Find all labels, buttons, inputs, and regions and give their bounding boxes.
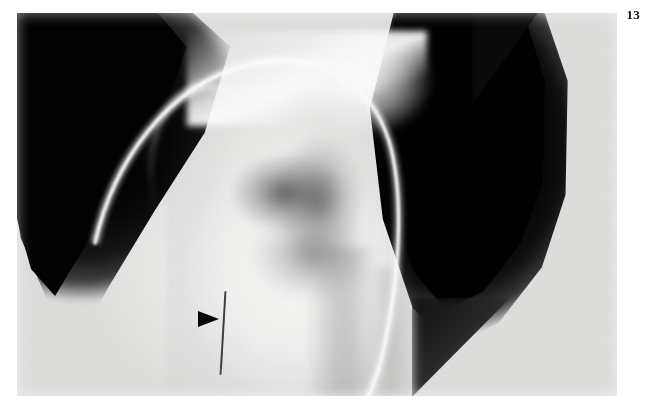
radiograph-image [17, 13, 617, 396]
figure-container: 13 [0, 0, 648, 409]
arrowhead-icon [198, 311, 219, 327]
spine-shadow [307, 248, 377, 396]
paraspinal-shadow [369, 268, 415, 396]
arrowhead-marker [198, 311, 220, 327]
apical-opacity [302, 29, 432, 139]
figure-number: 13 [627, 8, 640, 21]
